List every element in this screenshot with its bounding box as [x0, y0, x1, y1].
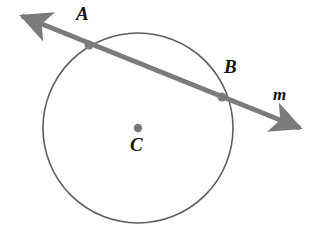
geometry-canvas: [0, 0, 314, 247]
label-point-b: B: [224, 57, 237, 76]
label-center-c: C: [130, 135, 143, 154]
label-line-m: m: [273, 86, 286, 103]
geometry-diagram: A B C m: [0, 0, 314, 247]
center-point-marker: [134, 124, 142, 132]
secant-line-m: [22, 16, 300, 128]
point-a-marker: [85, 41, 94, 50]
label-point-a: A: [76, 4, 89, 23]
point-b-marker: [218, 93, 227, 102]
